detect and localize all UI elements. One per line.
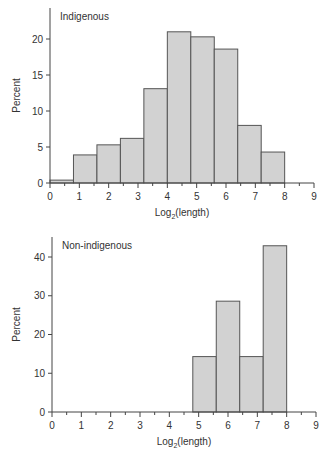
x-tick-label: 8 xyxy=(282,191,288,202)
histogram-bar xyxy=(73,155,96,183)
histogram-bar xyxy=(261,152,284,183)
x-tick-label: 8 xyxy=(284,420,290,431)
histogram-bar xyxy=(97,145,120,183)
x-tick-label: 6 xyxy=(225,420,231,431)
x-tick-label: 3 xyxy=(135,191,141,202)
x-axis-label: Log2(length) xyxy=(157,436,212,449)
x-tick-label: 6 xyxy=(223,191,229,202)
y-tick-label: 40 xyxy=(34,252,46,263)
x-tick-label: 7 xyxy=(255,420,261,431)
y-tick-label: 10 xyxy=(34,368,46,379)
histogram-bar xyxy=(193,357,216,412)
x-tick-label: 5 xyxy=(194,191,200,202)
non-indigenous-histogram: 0102030400123456789Non-indigenousPercent… xyxy=(11,237,319,449)
x-tick-label: 9 xyxy=(311,191,317,202)
x-tick-label: 7 xyxy=(253,191,259,202)
histogram-bar xyxy=(144,89,167,183)
x-tick-label: 1 xyxy=(79,420,85,431)
x-axis-label: Log2(length) xyxy=(155,207,210,220)
histogram-bar xyxy=(240,357,263,412)
panel-title: Indigenous xyxy=(60,11,109,22)
y-axis-label: Percent xyxy=(11,78,22,113)
y-tick-label: 20 xyxy=(34,329,46,340)
x-tick-label: 5 xyxy=(196,420,202,431)
x-tick-label: 3 xyxy=(137,420,143,431)
x-tick-label: 2 xyxy=(108,420,114,431)
x-tick-label: 2 xyxy=(106,191,112,202)
x-tick-label: 4 xyxy=(167,420,173,431)
x-tick-label: 0 xyxy=(49,420,55,431)
histogram-figure: 051015200123456789IndigenousPercentLog2(… xyxy=(0,0,333,459)
x-tick-label: 9 xyxy=(313,420,319,431)
histogram-bar xyxy=(120,138,143,183)
y-tick-label: 30 xyxy=(34,290,46,301)
histogram-bar xyxy=(216,301,239,412)
x-tick-label: 4 xyxy=(165,191,171,202)
y-tick-label: 20 xyxy=(32,34,44,45)
histogram-bar xyxy=(214,49,237,183)
panel-title: Non-indigenous xyxy=(62,240,132,251)
y-axis-label: Percent xyxy=(11,307,22,342)
y-tick-label: 10 xyxy=(32,106,44,117)
histogram-bar xyxy=(263,246,286,412)
y-tick-label: 0 xyxy=(39,407,45,418)
y-tick-label: 15 xyxy=(32,70,44,81)
y-tick-label: 0 xyxy=(37,178,43,189)
histogram-bar xyxy=(191,37,214,183)
x-tick-label: 0 xyxy=(47,191,53,202)
indigenous-histogram: 051015200123456789IndigenousPercentLog2(… xyxy=(11,8,317,220)
y-tick-label: 5 xyxy=(37,142,43,153)
x-tick-label: 1 xyxy=(77,191,83,202)
histogram-bar xyxy=(238,125,261,183)
histogram-bar xyxy=(167,32,190,183)
